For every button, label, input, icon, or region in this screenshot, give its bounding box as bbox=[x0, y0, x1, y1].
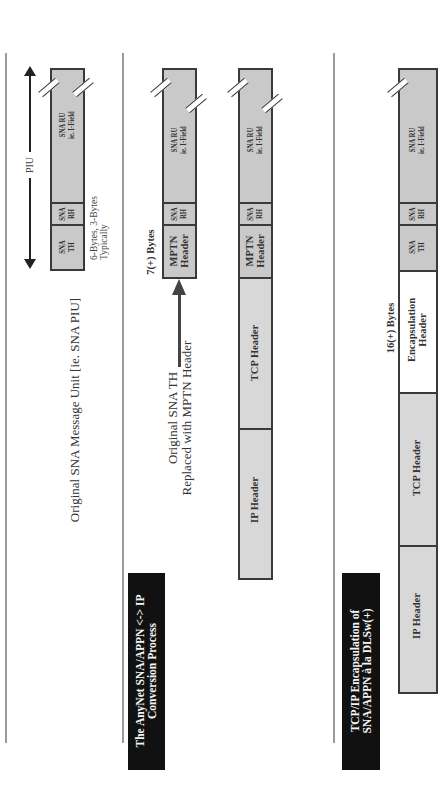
segment-label: SNA RUie. I-Field bbox=[246, 126, 265, 154]
arrow-head-up-icon bbox=[24, 66, 36, 76]
segment-label: SNATH bbox=[58, 240, 77, 254]
segment-label: EncapsulationHeader bbox=[406, 298, 428, 362]
arrow-head-down-icon bbox=[24, 259, 36, 269]
section-title-box: The AnyNet SNA/APPN <-> IPConversion Pro… bbox=[128, 573, 165, 770]
segment-label: IP Header bbox=[411, 593, 422, 639]
segment-label: MPTNHeader bbox=[244, 234, 266, 267]
segment-label: SNA RUie. I-Field bbox=[408, 126, 427, 154]
bytes-label: 7(+) Bytes bbox=[145, 229, 156, 274]
segment-label: SNARH bbox=[170, 207, 189, 221]
piu-label: PIU bbox=[25, 157, 36, 173]
segment-label: SNA RUie. I-Field bbox=[58, 111, 77, 139]
section-caption: Original SNA Message Unit [ie. SNA PIU] bbox=[68, 298, 82, 522]
segment-label: TCP Header bbox=[411, 440, 422, 496]
segment-label: SNARH bbox=[58, 207, 77, 221]
section-divider-3 bbox=[333, 53, 335, 743]
annotation-text: Original SNA THReplaced with MPTN Header bbox=[166, 341, 193, 496]
segment-label: SNARH bbox=[246, 207, 265, 221]
section-title: TCP/IP Encapsulation ofSNA/APPN à la DLS… bbox=[349, 608, 373, 733]
section-divider-2 bbox=[122, 53, 124, 743]
section-divider-1 bbox=[5, 53, 7, 743]
section-title-box: TCP/IP Encapsulation ofSNA/APPN à la DLS… bbox=[342, 573, 380, 770]
section-title: The AnyNet SNA/APPN <-> IPConversion Pro… bbox=[134, 594, 158, 747]
bytes-label: 16(+) Bytes bbox=[385, 303, 396, 354]
segment-label: IP Header bbox=[249, 477, 260, 523]
arrow-head-up-icon bbox=[172, 279, 186, 295]
segment-label: SNARH bbox=[408, 207, 427, 221]
segment-label: MPTNHeader bbox=[168, 234, 190, 267]
segment-label: SNATH bbox=[408, 240, 427, 254]
segment-label: TCP Header bbox=[249, 325, 260, 381]
segment-label: SNA RUie. I-Field bbox=[170, 126, 189, 154]
byte-size-note: 6-Bytes, 3-BytesTypically bbox=[90, 196, 110, 260]
